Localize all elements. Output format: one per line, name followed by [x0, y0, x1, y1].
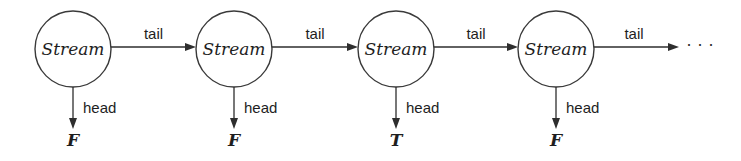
head-edge-label: head — [244, 99, 277, 116]
head-value-label: F — [227, 130, 242, 150]
head-edge-label: head — [83, 99, 116, 116]
stream-diagram: StreamheadFtailStreamheadFtailStreamhead… — [0, 0, 741, 161]
head-arrow-arrowhead-icon — [230, 118, 238, 129]
head-edge-label: head — [566, 99, 599, 116]
head-arrow-arrowhead-icon — [392, 118, 400, 129]
head-value-label: F — [549, 130, 564, 150]
tail-arrow-arrowhead-icon — [507, 43, 518, 51]
tail-arrow-arrowhead-icon — [185, 43, 196, 51]
stream-node-label: Stream — [365, 39, 428, 59]
head-value-label: F — [66, 130, 81, 150]
head-edge-label: head — [406, 99, 439, 116]
stream-node-label: Stream — [203, 39, 266, 59]
stream-node-label: Stream — [525, 39, 588, 59]
tail-edge-label: tail — [144, 25, 163, 42]
continuation-ellipsis: · · · — [686, 34, 714, 54]
tail-edge-label: tail — [466, 25, 485, 42]
head-value-label: T — [390, 130, 404, 150]
tail-arrow-arrowhead-icon — [668, 43, 679, 51]
head-arrow-arrowhead-icon — [69, 118, 77, 129]
head-arrow-arrowhead-icon — [552, 118, 560, 129]
tail-edge-label: tail — [624, 25, 643, 42]
tail-arrow-arrowhead-icon — [347, 43, 358, 51]
tail-edge-label: tail — [305, 25, 324, 42]
stream-node-label: Stream — [42, 39, 105, 59]
